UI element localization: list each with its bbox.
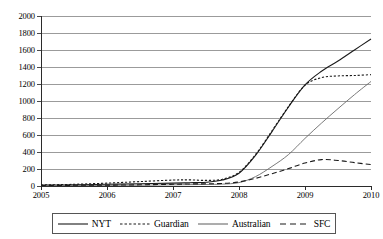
y-axis-tick-label: 1600 bbox=[18, 46, 35, 55]
series-line-nyt bbox=[41, 39, 371, 185]
legend-swatch-solid bbox=[198, 220, 228, 228]
legend-swatch-solid bbox=[58, 220, 88, 228]
y-axis-tick-label: 600 bbox=[23, 131, 35, 140]
x-axis-tick-label: 2007 bbox=[165, 190, 182, 200]
legend-item-sfc[interactable]: SFC bbox=[280, 219, 331, 229]
x-axis-tick-label: 2008 bbox=[231, 190, 248, 200]
legend-label: NYT bbox=[92, 219, 111, 229]
y-axis-tick-label: 1200 bbox=[18, 80, 35, 89]
y-axis-tick-label: 800 bbox=[23, 114, 35, 123]
legend-label: Australian bbox=[232, 219, 271, 229]
legend-label: SFC bbox=[314, 219, 331, 229]
series-line-guardian bbox=[41, 75, 371, 185]
y-axis-labels: 0200400600800100012001400160018002000 bbox=[0, 0, 38, 200]
y-axis-tick-label: 2000 bbox=[18, 12, 35, 21]
y-axis-tick-label: 1800 bbox=[18, 29, 35, 38]
x-axis-tick-label: 2006 bbox=[99, 190, 116, 200]
line-chart: 0200400600800100012001400160018002000 20… bbox=[0, 0, 383, 239]
series-paths bbox=[41, 16, 371, 186]
legend-swatch-dotted bbox=[120, 220, 150, 228]
plot-area: 0200400600800100012001400160018002000 20… bbox=[0, 0, 383, 200]
chart-legend: NYTGuardianAustralianSFC bbox=[52, 213, 336, 234]
legend-item-nyt[interactable]: NYT bbox=[58, 219, 111, 229]
x-axis-tick-label: 2005 bbox=[33, 190, 50, 200]
y-axis-tick-label: 400 bbox=[23, 148, 35, 157]
y-axis-tick-label: 1000 bbox=[18, 97, 35, 106]
legend-item-australian[interactable]: Australian bbox=[198, 219, 271, 229]
x-axis-labels: 200520062007200820092010 bbox=[0, 190, 383, 204]
x-axis-tick-label: 2010 bbox=[363, 190, 380, 200]
legend-item-guardian[interactable]: Guardian bbox=[120, 219, 189, 229]
legend-swatch-dashed bbox=[280, 220, 310, 228]
y-axis-tick-label: 200 bbox=[23, 165, 35, 174]
x-axis-tick-label: 2009 bbox=[297, 190, 314, 200]
y-axis-tick-label: 1400 bbox=[18, 63, 35, 72]
series-line-australian bbox=[41, 81, 371, 185]
series-line-sfc bbox=[41, 160, 371, 186]
legend-label: Guardian bbox=[154, 219, 189, 229]
